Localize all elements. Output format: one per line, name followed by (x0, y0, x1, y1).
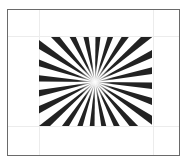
center-blur (35, 22, 155, 142)
siemens-star (0, 0, 187, 162)
